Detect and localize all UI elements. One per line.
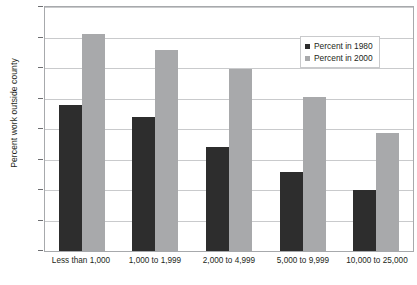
- x-axis-tick-label: 1,000 to 1,999: [118, 256, 192, 265]
- x-axis-tick-label: 10,000 to 25,000: [340, 256, 414, 265]
- bar-2000: [303, 97, 326, 251]
- bar-2000: [376, 133, 399, 251]
- legend-swatch-2000-icon: [305, 56, 310, 61]
- x-axis-tick-label: 2,000 to 4,999: [192, 256, 266, 265]
- legend-item-1980: Percent in 1980: [305, 40, 373, 52]
- chart-legend: Percent in 1980 Percent in 2000: [300, 36, 380, 68]
- y-axis-tick-mark: [38, 128, 43, 129]
- y-axis-title: Percent work outside county: [9, 33, 19, 193]
- legend-label-1980: Percent in 1980: [314, 40, 373, 52]
- y-axis-tick-mark: [38, 67, 43, 68]
- y-axis-tick-mark: [38, 189, 43, 190]
- legend-label-2000: Percent in 2000: [314, 52, 373, 64]
- bar-1980: [280, 172, 303, 251]
- legend-item-2000: Percent in 2000: [305, 52, 373, 64]
- bar-1980: [59, 105, 82, 251]
- bar-chart: Percent work outside county 403530252015…: [0, 0, 417, 285]
- y-axis-tick-mark: [38, 250, 43, 251]
- bar-group: [192, 7, 266, 251]
- bar-2000: [82, 34, 105, 251]
- legend-swatch-1980-icon: [305, 44, 310, 49]
- x-axis-tick-label: 5,000 to 9,999: [266, 256, 340, 265]
- bar-1980: [353, 190, 376, 251]
- y-axis-tick-mark: [38, 98, 43, 99]
- bar-group: [45, 7, 119, 251]
- bar-1980: [206, 147, 229, 251]
- y-axis-tick-mark: [38, 37, 43, 38]
- y-axis-tick-mark: [38, 159, 43, 160]
- y-axis-tick-mark: [38, 220, 43, 221]
- x-axis-tick-label: Less than 1,000: [44, 256, 118, 265]
- y-axis-tick-mark: [38, 6, 43, 7]
- bar-2000: [155, 50, 178, 251]
- x-axis-tick-labels: Less than 1,0001,000 to 1,9992,000 to 4,…: [44, 256, 414, 265]
- bar-group: [119, 7, 193, 251]
- bar-2000: [229, 69, 252, 251]
- bar-1980: [132, 117, 155, 251]
